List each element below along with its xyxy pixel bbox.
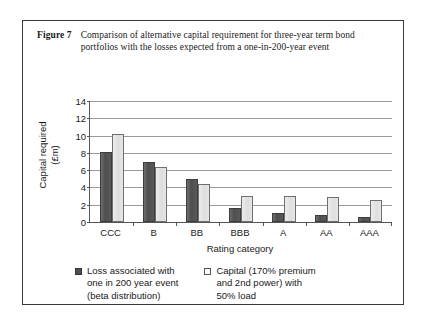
- bar-group: [349, 101, 392, 222]
- bar-group: [176, 101, 219, 222]
- bar: [143, 162, 155, 223]
- legend-label: Loss associated with one in 200 year eve…: [87, 265, 178, 302]
- figure-number-label: Figure 7: [37, 29, 72, 41]
- y-axis-tick-label: 4: [81, 182, 86, 193]
- y-axis-title: Capital required (£m): [37, 105, 61, 205]
- x-axis-tick-mark: [263, 222, 264, 226]
- legend-swatch-light: [204, 268, 211, 275]
- x-axis-category-label-aaa: AAA: [348, 227, 391, 238]
- y-axis-tick-label: 2: [81, 199, 86, 210]
- y-axis-tick-mark: [87, 222, 91, 223]
- bar: [315, 215, 327, 222]
- x-axis-tick-mark: [176, 222, 177, 226]
- chart-legend: Loss associated with one in 200 year eve…: [75, 265, 316, 302]
- x-axis-category-label-b: B: [132, 227, 175, 238]
- figure-frame: Figure 7 Comparison of alternative capit…: [22, 20, 404, 305]
- bar-group: [133, 101, 176, 222]
- bar-chart: Capital required (£m) 02468101214 CCCBBB…: [23, 75, 403, 265]
- bar: [358, 217, 370, 222]
- x-axis-tick-labels: CCCBBBBBBAAAAAA: [89, 227, 391, 238]
- legend-item: Loss associated with one in 200 year eve…: [75, 265, 178, 302]
- y-axis-title-line1: Capital required: [37, 121, 48, 188]
- bar: [198, 184, 210, 222]
- bar: [370, 200, 382, 222]
- bar: [272, 213, 284, 223]
- bar-group: [306, 101, 349, 222]
- y-axis-tick-label: 14: [75, 96, 86, 107]
- y-axis-title-line2: (£m): [49, 105, 61, 205]
- legend-swatch-dark: [75, 268, 82, 275]
- bar: [186, 179, 198, 222]
- x-axis-tick-mark: [219, 222, 220, 226]
- y-axis-tick-label: 8: [81, 147, 86, 158]
- bar-group: [263, 101, 306, 222]
- bar-series-container: [90, 101, 392, 222]
- bar: [100, 152, 112, 222]
- x-axis-category-label-bbb: BBB: [218, 227, 261, 238]
- x-axis-tick-mark: [349, 222, 350, 226]
- x-axis-tick-mark: [391, 222, 392, 226]
- bar: [112, 134, 124, 222]
- x-axis-category-label-aa: AA: [305, 227, 348, 238]
- x-axis-category-label-bb: BB: [175, 227, 218, 238]
- plot-area: 02468101214: [89, 101, 392, 223]
- y-axis-tick-label: 0: [81, 217, 86, 228]
- legend-label: Capital (170% premium and 2nd power) wit…: [216, 265, 315, 302]
- x-axis-category-label-ccc: CCC: [89, 227, 132, 238]
- x-axis-title: Rating category: [89, 243, 391, 254]
- bar: [284, 196, 296, 222]
- bar-group: [90, 101, 133, 222]
- bar: [241, 196, 253, 222]
- x-axis-tick-mark: [133, 222, 134, 226]
- bar: [229, 208, 241, 222]
- figure-caption-text: Comparison of alternative capital requir…: [81, 29, 391, 53]
- y-axis-tick-label: 6: [81, 165, 86, 176]
- x-axis-tick-mark: [306, 222, 307, 226]
- bar-group: [219, 101, 262, 222]
- y-axis-tick-label: 10: [75, 130, 86, 141]
- bar: [327, 197, 339, 222]
- y-axis-tick-label: 12: [75, 113, 86, 124]
- x-axis-category-label-a: A: [262, 227, 305, 238]
- legend-item: Capital (170% premium and 2nd power) wit…: [204, 265, 315, 302]
- figure-caption: Figure 7 Comparison of alternative capit…: [37, 29, 391, 53]
- bar: [155, 167, 167, 222]
